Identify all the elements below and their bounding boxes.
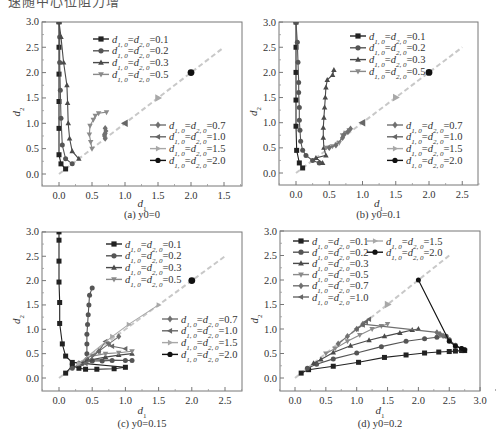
circle-marker-icon bbox=[167, 352, 172, 357]
circle-marker-icon bbox=[86, 302, 91, 307]
y-tick-label: 2.0 bbox=[264, 275, 277, 286]
circle-marker-icon bbox=[331, 356, 336, 361]
triangle-left-marker-icon bbox=[392, 134, 397, 140]
square-marker-icon bbox=[57, 45, 62, 50]
series-10200.7 bbox=[336, 321, 446, 347]
diamond-marker-icon bbox=[298, 282, 303, 289]
series-10202.0 bbox=[188, 277, 195, 284]
circle-marker-icon bbox=[110, 358, 115, 363]
triangle-right-marker-icon bbox=[393, 146, 398, 152]
square-marker-icon bbox=[70, 360, 75, 365]
triangle-left-marker-icon bbox=[358, 119, 365, 126]
circle-marker-icon bbox=[295, 60, 300, 65]
triangle-up-marker-icon bbox=[56, 19, 62, 24]
x-tick-label: 1.5 bbox=[217, 190, 230, 201]
square-marker-icon bbox=[300, 165, 305, 170]
square-marker-icon bbox=[83, 367, 88, 372]
x-tick-label: 2.5 bbox=[443, 395, 456, 406]
series-10202.0 bbox=[416, 278, 467, 353]
square-marker-icon bbox=[422, 351, 427, 356]
square-marker-icon bbox=[57, 72, 62, 77]
series-10201.0 bbox=[358, 119, 365, 126]
series-10200.1 bbox=[57, 19, 69, 171]
square-marker-icon bbox=[63, 166, 68, 171]
triangle-up-marker-icon bbox=[323, 152, 329, 157]
series-10202.0 bbox=[426, 69, 433, 76]
series-10200.2 bbox=[294, 20, 322, 166]
panel-caption: (a) y0=0 bbox=[124, 209, 160, 221]
circle-marker-icon bbox=[447, 339, 452, 344]
legend: d1, 0=d2, 0=0.1d1, 0=d2, 0=0.2d1, 0=d2, … bbox=[293, 236, 442, 307]
circle-marker-icon bbox=[86, 312, 91, 317]
y-tick-label: 3.0 bbox=[26, 226, 39, 237]
square-marker-icon bbox=[57, 280, 62, 285]
series-10200.3 bbox=[313, 67, 336, 165]
triangle-left-marker-icon bbox=[122, 346, 127, 352]
y-tick-label: 0.0 bbox=[26, 169, 39, 180]
y-tick-label: 0.5 bbox=[264, 348, 277, 359]
triangle-up-marker-icon bbox=[64, 82, 70, 87]
triangle-down-marker-icon bbox=[89, 147, 95, 152]
circle-marker-icon bbox=[58, 88, 63, 93]
triangle-up-marker-icon bbox=[323, 95, 329, 100]
circle-marker-icon bbox=[63, 156, 68, 161]
square-marker-icon bbox=[331, 364, 336, 369]
triangle-up-marker-icon bbox=[321, 125, 327, 130]
circle-marker-icon bbox=[296, 80, 301, 85]
circle-marker-icon bbox=[100, 358, 105, 363]
circle-marker-icon bbox=[303, 153, 308, 158]
x-tick-label: 1.5 bbox=[389, 189, 402, 200]
triangle-up-marker-icon bbox=[321, 115, 327, 120]
triangle-up-marker-icon bbox=[67, 136, 73, 141]
circle-marker-icon bbox=[188, 277, 195, 284]
square-marker-icon bbox=[298, 238, 303, 243]
series-10201.0 bbox=[121, 120, 128, 127]
y-axis-label: d2 bbox=[247, 107, 263, 117]
y-tick-label: 1.5 bbox=[26, 299, 39, 310]
circle-marker-icon bbox=[130, 358, 135, 363]
x-tick-label: 1.5 bbox=[381, 395, 394, 406]
square-marker-icon bbox=[98, 36, 103, 41]
triangle-up-marker-icon bbox=[331, 67, 337, 72]
square-marker-icon bbox=[63, 371, 68, 376]
y-tick-label: 3.0 bbox=[263, 17, 276, 28]
circle-marker-icon bbox=[305, 366, 310, 371]
chart-panel-d: 0.00.51.01.52.02.53.00.00.51.01.52.02.53… bbox=[248, 226, 496, 431]
series-10201.0 bbox=[354, 316, 371, 331]
y-axis-label: d2 bbox=[248, 314, 264, 324]
square-marker-icon bbox=[355, 33, 360, 38]
triangle-right-marker-icon bbox=[373, 238, 378, 244]
circle-marker-icon bbox=[85, 322, 90, 327]
square-marker-icon bbox=[57, 321, 62, 326]
circle-marker-icon bbox=[123, 358, 128, 363]
circle-marker-icon bbox=[188, 69, 195, 76]
circle-marker-icon bbox=[295, 40, 300, 45]
circle-marker-icon bbox=[60, 143, 65, 148]
square-marker-icon bbox=[57, 126, 62, 131]
square-marker-icon bbox=[94, 367, 99, 372]
circle-marker-icon bbox=[462, 348, 467, 353]
circle-marker-icon bbox=[87, 293, 92, 298]
x-tick-label: 0.0 bbox=[288, 395, 301, 406]
y-tick-label: 2.5 bbox=[264, 250, 277, 261]
square-marker-icon bbox=[294, 124, 299, 129]
square-marker-icon bbox=[453, 349, 458, 354]
circle-marker-icon bbox=[298, 250, 303, 255]
square-marker-icon bbox=[57, 152, 62, 157]
y-tick-label: 0.5 bbox=[263, 142, 276, 153]
x-tick-label: 0.0 bbox=[289, 189, 302, 200]
circle-marker-icon bbox=[70, 366, 75, 371]
y-tick-label: 0.0 bbox=[26, 373, 39, 384]
triangle-left-marker-icon bbox=[298, 294, 303, 300]
triangle-left-marker-icon bbox=[167, 328, 172, 334]
circle-marker-icon bbox=[426, 69, 433, 76]
legend: d1, 0=d2, 0=0.1d1, 0=d2, 0=0.2d1, 0=d2, … bbox=[93, 34, 225, 170]
triangle-right-marker-icon bbox=[156, 146, 161, 152]
x-tick-label: 2.5 bbox=[218, 395, 231, 406]
triangle-up-marker-icon bbox=[323, 84, 329, 89]
circle-marker-icon bbox=[84, 332, 89, 337]
plot-area bbox=[295, 256, 467, 379]
y-tick-label: 1.0 bbox=[264, 324, 277, 335]
y-tick-label: 2.0 bbox=[263, 67, 276, 78]
square-marker-icon bbox=[404, 352, 409, 357]
